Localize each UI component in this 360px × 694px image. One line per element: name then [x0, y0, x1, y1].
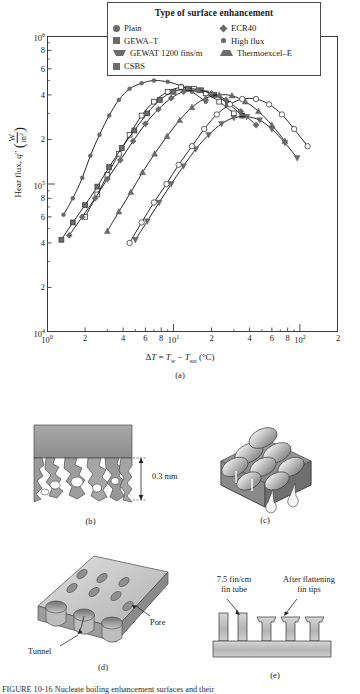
series-4 [104, 92, 288, 234]
series-5 [132, 114, 300, 243]
square-marker-icon [113, 63, 120, 70]
x-tick-label: 6 [143, 334, 147, 343]
bubble-mound-graphic [205, 405, 325, 515]
panel-e-label-fin-tube: 7.5 fin/cm fin tube [199, 575, 269, 594]
legend-item: GEWAT 1200 fins/m [113, 47, 202, 60]
flatten-line1: After flattening [283, 575, 335, 584]
y-tick-label: 4 [41, 91, 45, 100]
legend-item-label: GEWAT 1200 fins/m [130, 48, 202, 58]
x-tick-label: 8 [286, 334, 290, 343]
y-tick-label: 4 [41, 239, 45, 248]
y-tick-label: 6 [41, 65, 45, 74]
x-tick-label: 8 [159, 334, 163, 343]
panel-b-porous-coating: 0.3 mm (b) [33, 424, 148, 512]
legend-item: GEWA–T [113, 35, 202, 48]
y-axis-symbol: q [13, 154, 23, 159]
legend-column-left: PlainGEWA–TGEWAT 1200 fins/mCSBS [113, 22, 202, 72]
legend-item-label: Thermoexcel–E [237, 48, 292, 58]
chart-legend: Type of surface enhancement PlainGEWA–TG… [107, 2, 321, 76]
units-denominator: m2 [18, 132, 29, 143]
y-axis-title: Hear flux, q″ (Wm2) [9, 97, 29, 227]
tunnel-pore-graphic [28, 550, 178, 655]
paren-open: ( [11, 143, 27, 148]
x-tick-label: 100 [41, 334, 53, 344]
panel-d-label-pore: Pore [150, 618, 165, 628]
tsat-subscript: sat [190, 357, 197, 364]
legend-item-label: ECR40 [231, 23, 256, 33]
legend-item: Plain [113, 22, 202, 35]
y-tick-label: 8 [41, 46, 45, 55]
den-exp: 2 [17, 133, 24, 136]
y-tick-label: 2 [41, 135, 45, 144]
y-axis-title-text: Hear flux, [13, 159, 23, 198]
panel-a-caption: (a) [0, 370, 360, 380]
panel-e-caption: (e) [205, 670, 345, 680]
panel-b-caption: (b) [33, 516, 148, 526]
flatten-line2: fin tips [297, 585, 321, 594]
up-triangle-marker-icon [220, 50, 233, 56]
x-axis-tick-labels: 100246810124681022 [0, 334, 360, 354]
x-tick-label: 4 [121, 334, 125, 343]
fin-tube-line1: 7.5 fin/cm [217, 575, 251, 584]
y-tick-label: 6 [41, 213, 45, 222]
fin-profile-graphic [205, 597, 345, 667]
equals: = [156, 352, 166, 362]
y-tick-label: 106 [33, 32, 45, 42]
series-6 [127, 96, 310, 245]
series-1 [83, 85, 237, 219]
x-axis-title: ΔT = Tw − Tsat (°C) [0, 352, 360, 364]
panel-b-dimension-label: 0.3 mm [152, 472, 178, 482]
diamond-marker-icon [219, 24, 227, 32]
panel-c-bubble-mound-surface: (c) [205, 405, 325, 515]
legend-item: ECR40 [220, 22, 292, 35]
y-axis-prime: ″ [13, 151, 23, 155]
legend-item: Thermoexcel–E [220, 47, 292, 60]
legend-item-label: GEWA–T [124, 36, 158, 46]
legend-item-label: Plain [124, 23, 142, 33]
plot-canvas [47, 36, 338, 332]
panel-e-label-flattened: After flattening fin tips [267, 575, 351, 594]
x-tick-label: 6 [270, 334, 274, 343]
den-base: m [19, 136, 28, 142]
x-tick-label: 2 [336, 334, 340, 343]
panel-d-label-tunnel: Tunnel [28, 647, 51, 657]
panel-c-caption: (c) [205, 515, 325, 525]
series-0 [61, 79, 207, 217]
legend-item: High flux [220, 35, 292, 48]
x-tick-label: 2 [83, 334, 87, 343]
x-tick-label: 4 [247, 334, 251, 343]
panel-a-boiling-curve-chart: 10686421058642104 100246810124681022 Hea… [0, 0, 360, 390]
legend-column-right: ECR40High fluxThermoexcel–E [220, 22, 292, 60]
square-marker-icon [113, 37, 120, 44]
legend-body: PlainGEWA–TGEWAT 1200 fins/mCSBS ECR40Hi… [108, 22, 320, 74]
figure-bottom-caption: FIGURE 10-16 Nucleate boiling enhancemen… [0, 685, 360, 694]
down-triangle-marker-icon [113, 50, 126, 56]
small-circle-marker-icon [221, 38, 226, 43]
x-tick-label: 101 [168, 334, 180, 344]
legend-item-label: CSBS [124, 61, 145, 71]
x-tick-label: 102 [294, 334, 306, 344]
panel-d-caption: (d) [28, 662, 178, 672]
porous-coating-graphic [33, 424, 148, 512]
x-tick-label: 2 [209, 334, 213, 343]
legend-title: Type of surface enhancement [108, 8, 320, 18]
panel-d-tunnel-pore-surface: Tunnel Pore (d) [28, 550, 178, 668]
x-units: (°C) [199, 352, 215, 362]
legend-item: CSBS [113, 60, 202, 73]
y-tick-label: 2 [41, 283, 45, 292]
units-fraction: Wm2 [8, 132, 28, 143]
y-tick-label: 8 [41, 194, 45, 203]
minus: − [175, 352, 185, 362]
circle-marker-icon [113, 25, 120, 32]
y-tick-label: 105 [33, 180, 45, 190]
legend-item-label: High flux [231, 36, 264, 46]
fin-tube-line2: fin tube [221, 585, 247, 594]
panel-e-fin-tube-profile: 7.5 fin/cm fin tube After flattening fin… [205, 575, 345, 670]
